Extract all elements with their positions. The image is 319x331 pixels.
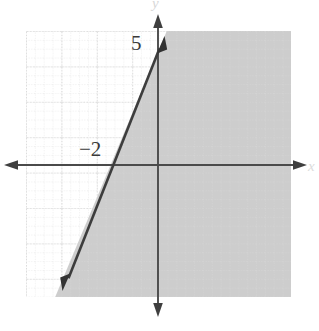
y-axis-arrow-up (153, 14, 163, 28)
graph-figure: y x 5 −2 (0, 0, 319, 331)
coordinate-plane-svg (0, 0, 319, 331)
x-intercept-label: −2 (79, 139, 101, 160)
x-axis-arrow-right (293, 160, 307, 170)
y-intercept-label: 5 (131, 33, 142, 54)
x-axis-label: x (308, 159, 315, 174)
x-axis-arrow-left (4, 160, 18, 170)
y-axis-arrow-down (153, 303, 163, 317)
y-axis-label: y (152, 0, 159, 11)
